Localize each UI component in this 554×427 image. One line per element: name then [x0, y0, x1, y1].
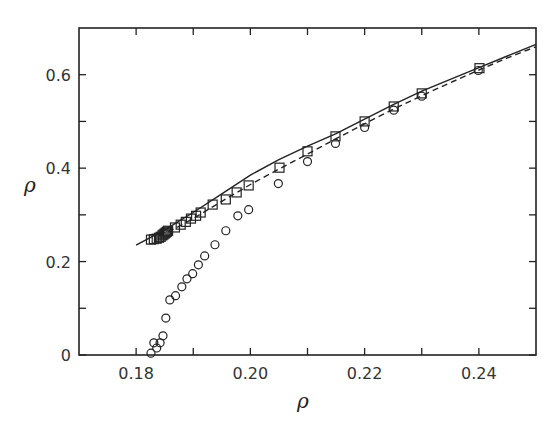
x-axis-label: ρ [296, 389, 309, 413]
plot-border [79, 28, 536, 355]
plot-frame [79, 28, 536, 355]
circle-marker [234, 212, 242, 220]
circle-marker [211, 241, 219, 249]
circle-marker [304, 158, 312, 166]
circle-marker [189, 270, 197, 278]
circle-marker [222, 227, 230, 235]
dashed-line [159, 47, 536, 236]
scatter-chart: 0.180.200.220.24 00.20.40.6 ρ ρ [0, 0, 554, 427]
y-tick-label: 0.6 [46, 66, 71, 85]
y-tick-label: 0.2 [46, 253, 71, 272]
circle-marker [166, 296, 174, 304]
y-tick-label: 0.4 [46, 159, 71, 178]
circle-marker [162, 314, 170, 322]
circle-marker [361, 124, 369, 132]
circle-marker [159, 332, 167, 340]
circle-marker [178, 283, 186, 291]
x-tick-label: 0.18 [118, 364, 154, 383]
x-axis-ticks: 0.180.200.220.24 [118, 28, 496, 383]
y-tick-label: 0 [61, 346, 71, 365]
square-marker [232, 188, 241, 197]
circle-marker [274, 180, 282, 188]
circle-marker [201, 252, 209, 260]
circle-marker [172, 292, 180, 300]
circle-marker [194, 261, 202, 269]
y-axis-ticks: 00.20.40.6 [46, 66, 536, 365]
circle-marker [245, 206, 253, 214]
y-axis-label: ρ [23, 173, 36, 197]
x-tick-label: 0.22 [347, 364, 383, 383]
x-tick-label: 0.24 [461, 364, 497, 383]
circle-marker [418, 92, 426, 100]
x-tick-label: 0.20 [233, 364, 269, 383]
